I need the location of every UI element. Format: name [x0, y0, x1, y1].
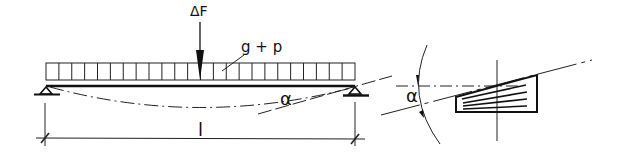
tangent-line — [258, 76, 392, 114]
hatch-line — [463, 106, 527, 109]
point-load-label: ΔF — [190, 3, 208, 19]
angle-arc — [419, 45, 440, 144]
span-length-label: l — [198, 119, 203, 140]
alpha-label-beam: α — [280, 88, 292, 109]
beam-diagram: α ΔF g + p l α — [0, 0, 634, 157]
deflection-curve — [50, 87, 355, 108]
alpha-label-detail: α — [406, 85, 418, 106]
point-load-arrow — [196, 22, 204, 80]
hatch-line — [463, 99, 527, 106]
section-hatching — [462, 85, 527, 109]
diagram-canvas: α ΔF g + p l α — [0, 0, 634, 157]
distributed-load-label: g + p — [241, 38, 282, 56]
